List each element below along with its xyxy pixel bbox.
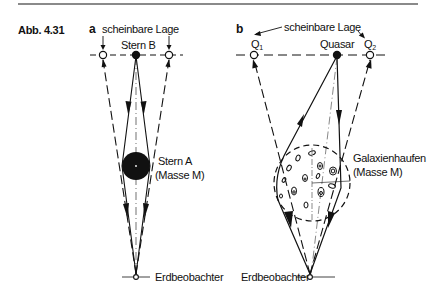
panel-b bbox=[236, 27, 390, 279]
apparent-image-right-icon bbox=[165, 51, 172, 58]
quasar-icon bbox=[333, 51, 341, 59]
star-b-icon bbox=[132, 51, 140, 59]
panel-a bbox=[90, 36, 183, 282]
lensing-diagram bbox=[0, 0, 431, 290]
image-q2-icon bbox=[366, 51, 373, 58]
observer-b-icon bbox=[308, 275, 313, 280]
apparent-image-left-icon bbox=[99, 51, 106, 58]
image-q1-icon bbox=[250, 51, 257, 58]
galaxy-icons bbox=[280, 150, 337, 208]
observer-a-icon bbox=[134, 275, 139, 280]
